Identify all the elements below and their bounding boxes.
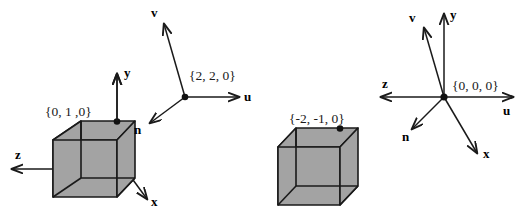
right-axis-v-line bbox=[424, 28, 444, 97]
left-uvn-frame: v u n {2, 2, 0} bbox=[134, 5, 251, 137]
right-cube-vertex-label: {-2, -1, 0} bbox=[289, 111, 345, 126]
left-cube bbox=[53, 118, 135, 197]
right-axis-label-z: z bbox=[382, 76, 388, 91]
left-uvn-axis-label-v: v bbox=[151, 5, 158, 20]
left-uvn-axis-label-n: n bbox=[134, 122, 142, 137]
left-cube-vertex-label: {0, 1 ,0} bbox=[45, 104, 92, 119]
right-axis-label-n: n bbox=[402, 129, 410, 144]
left-uvn-axis-label-u: u bbox=[244, 89, 251, 104]
left-uvn-origin-marker bbox=[182, 94, 189, 101]
right-axis-n-line bbox=[412, 97, 444, 129]
left-axis-label-z: z bbox=[15, 147, 21, 162]
right-cube bbox=[278, 125, 358, 205]
left-uvn-origin-label: {2, 2, 0} bbox=[189, 68, 236, 83]
right-combined-frame: y v z u n x {0, 0, 0} bbox=[381, 7, 513, 161]
right-axis-label-x: x bbox=[483, 146, 490, 161]
right-axis-label-y: y bbox=[450, 7, 457, 22]
left-uvn-axis-v-line bbox=[164, 24, 185, 97]
right-axis-x-line bbox=[444, 97, 477, 153]
diagram-canvas: y z x {0, 1 ,0} v u n {2, 2, 0} bbox=[0, 0, 526, 221]
diagram-svg: y z x {0, 1 ,0} v u n {2, 2, 0} bbox=[0, 0, 526, 221]
left-axis-label-y: y bbox=[124, 65, 131, 80]
right-axis-label-v: v bbox=[409, 10, 416, 25]
right-frame-origin-label: {0, 0, 0} bbox=[452, 78, 499, 93]
left-axis-label-x: x bbox=[151, 194, 158, 209]
right-cube-vertex-marker bbox=[337, 125, 344, 132]
left-scene: y z x {0, 1 ,0} bbox=[12, 65, 158, 209]
right-frame-origin-marker bbox=[440, 93, 447, 100]
left-cube-front-face bbox=[53, 140, 117, 197]
right-axis-label-u: u bbox=[503, 103, 510, 118]
left-uvn-axis-n-line bbox=[150, 97, 185, 123]
